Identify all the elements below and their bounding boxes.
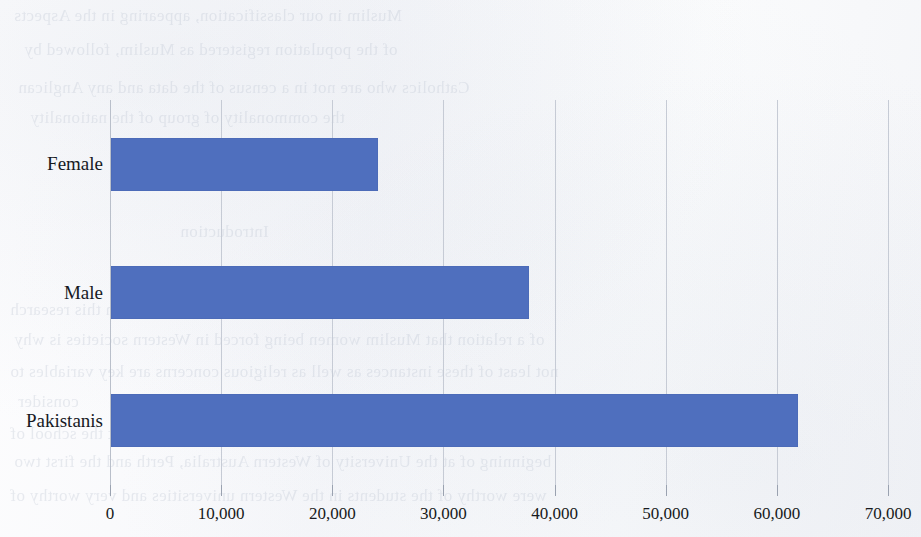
bar-pakistanis: [111, 394, 798, 447]
x-axis-tick: [221, 485, 222, 496]
y-axis-label-pakistanis: Pakistanis: [0, 410, 103, 432]
bar-male: [111, 266, 529, 319]
x-axis-tick: [110, 485, 111, 496]
x-axis-tick: [443, 485, 444, 496]
y-axis-label-female: Female: [0, 153, 103, 175]
x-axis-tick: [777, 485, 778, 496]
x-axis-tick-label: 40,000: [531, 504, 578, 524]
x-axis-tick-label: 20,000: [309, 504, 356, 524]
x-axis-tick: [666, 485, 667, 496]
x-axis-tick-label: 10,000: [198, 504, 245, 524]
plot-area: [110, 100, 888, 485]
x-axis-tick: [888, 485, 889, 496]
x-axis-tick-labels: 010,00020,00030,00040,00050,00060,00070,…: [0, 498, 921, 528]
y-axis-label-male: Male: [0, 282, 103, 304]
x-axis-tick-label: 0: [106, 504, 115, 524]
bar-chart: PakistanisMaleFemale 010,00020,00030,000…: [0, 0, 921, 537]
x-axis-tick-label: 70,000: [865, 504, 912, 524]
bar-female: [111, 138, 378, 191]
x-axis-tick-label: 30,000: [420, 504, 467, 524]
gridline: [888, 100, 889, 485]
x-axis-tick: [332, 485, 333, 496]
x-axis-tick: [555, 485, 556, 496]
y-axis-category-labels: PakistanisMaleFemale: [0, 100, 103, 485]
x-axis-tick-label: 60,000: [753, 504, 800, 524]
x-axis-tick-label: 50,000: [642, 504, 689, 524]
